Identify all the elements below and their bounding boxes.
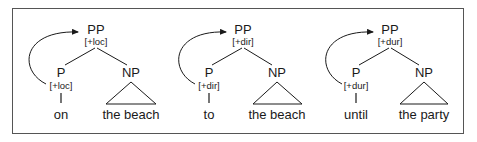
tree-3-head-word: until <box>344 107 368 122</box>
tree-3: PP [+dur] P [+dur] until NP the party <box>326 22 450 122</box>
tree-2-branch-right <box>244 48 272 65</box>
tree-2-branch-left <box>212 48 242 65</box>
tree-3-percolation-arrow <box>326 32 373 84</box>
tree-3-complement-triangle <box>400 82 448 104</box>
tree-1-root-label: PP <box>87 22 104 37</box>
tree-1: PP [+loc] P [+loc] on NP the beach <box>29 22 160 122</box>
tree-2-complement-label: NP <box>268 65 286 80</box>
tree-2: PP [+dir] P [+dir] to NP the beach <box>179 22 306 122</box>
tree-1-root-feature: [+loc] <box>85 36 108 47</box>
tree-2-head-word: to <box>204 107 215 122</box>
tree-1-percolation-arrow <box>29 32 78 84</box>
tree-1-complement-triangle <box>106 82 156 104</box>
tree-3-branch-left <box>359 48 389 65</box>
tree-2-root-feature: [+dir] <box>232 36 253 47</box>
tree-3-complement-label: NP <box>415 65 433 80</box>
tree-1-complement-words: the beach <box>102 107 159 122</box>
tree-3-head-feature: [+dur] <box>344 80 369 91</box>
tree-2-root-label: PP <box>234 22 251 37</box>
tree-1-head-label: P <box>57 65 66 80</box>
tree-1-head-word: on <box>54 107 68 122</box>
tree-2-head-feature: [+dir] <box>198 80 219 91</box>
tree-1-complement-label: NP <box>122 65 140 80</box>
tree-3-root-label: PP <box>381 22 398 37</box>
tree-3-head-label: P <box>352 65 361 80</box>
tree-1-branch-left <box>65 48 95 65</box>
tree-1-branch-right <box>97 48 127 65</box>
tree-2-head-label: P <box>205 65 214 80</box>
tree-3-root-feature: [+dur] <box>378 36 403 47</box>
tree-3-complement-words: the party <box>399 107 450 122</box>
diagram-canvas: PP [+loc] P [+loc] on NP the beach PP [+… <box>0 0 477 142</box>
tree-2-complement-triangle <box>253 82 302 104</box>
tree-2-complement-words: the beach <box>248 107 305 122</box>
tree-2-percolation-arrow <box>179 32 226 84</box>
tree-3-branch-right <box>391 48 419 65</box>
tree-1-head-feature: [+loc] <box>50 80 73 91</box>
